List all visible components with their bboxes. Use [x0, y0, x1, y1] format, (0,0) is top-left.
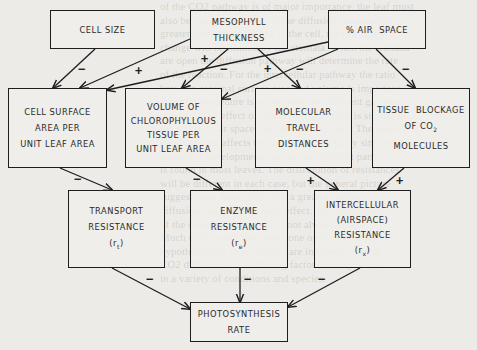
sign-intercellular-photosynthesis: −	[318, 272, 325, 286]
node-symbol: (re)	[231, 235, 247, 255]
sign-molecular-intercellular: +	[307, 174, 314, 188]
node-label: RESISTANCE	[88, 219, 144, 235]
node-cell-size: CELL SIZE	[50, 10, 155, 49]
node-label: INTERCELLULAR	[326, 198, 399, 213]
node-label: AREA PER	[35, 120, 80, 136]
node-label: TRAVEL	[286, 120, 320, 136]
arrow-cellsurface-transport	[60, 168, 112, 190]
node-label: MOLECULES	[393, 138, 448, 154]
node-tissue-blockage: TISSUE BLOCKAGE OF CO2 MOLECULES	[372, 88, 470, 168]
node-label: CELL SURFACE	[24, 104, 91, 120]
node-label: TISSUE PER	[147, 128, 200, 142]
node-intercellular-resistance: INTERCELLULAR (AIRSPACE) RESISTANCE (rx)	[314, 190, 411, 268]
node-label: CELL SIZE	[79, 22, 125, 38]
node-label: VOLUME OF	[147, 100, 200, 114]
sign-tissueblockage-intercellular: +	[396, 174, 403, 188]
sign-enzyme-photosynthesis: −	[244, 272, 251, 286]
node-label: % AIR SPACE	[346, 22, 408, 38]
node-photosynthesis-rate: PHOTOSYNTHESIS RATE	[190, 302, 288, 342]
node-label: (AIRSPACE)	[337, 213, 389, 228]
node-transport-resistance: TRANSPORT RESISTANCE (rt)	[68, 190, 165, 268]
node-label-co2: OF CO2	[404, 118, 437, 138]
node-label: TRANSPORT	[90, 203, 144, 219]
node-label: CHLOROPHYLLOUS	[131, 114, 216, 128]
sign-airspace-tissueblockage: −	[402, 62, 409, 76]
node-label: MESOPHYLL	[212, 14, 266, 30]
node-label: THICKNESS	[213, 30, 264, 46]
node-label: RESISTANCE	[211, 219, 267, 235]
node-label: DISTANCES	[278, 136, 329, 152]
node-molecular-travel: MOLECULAR TRAVEL DISTANCES	[255, 88, 352, 168]
sign-mesophyll-molecular: +	[264, 62, 271, 76]
arrow-chlorophyllous-enzyme	[186, 168, 222, 190]
sign-cellsize-cellsurface: −	[78, 62, 85, 76]
sign-chlorophyllous-enzyme: −	[193, 172, 200, 186]
node-chlorophyllous-volume: VOLUME OF CHLOROPHYLLOUS TISSUE PER UNIT…	[125, 88, 222, 168]
sign-mesophyll-chlorophyllous: +	[201, 52, 208, 66]
node-label: RATE	[228, 322, 251, 338]
sign-mesophyll-cellsurface: +	[135, 64, 142, 78]
node-label: MOLECULAR	[275, 104, 331, 120]
sign-airspace-cellsurface: −	[220, 62, 227, 76]
node-cell-surface-area: CELL SURFACE AREA PER UNIT LEAF AREA	[8, 88, 107, 168]
node-symbol: (rx)	[355, 243, 370, 261]
node-mesophyll-thickness: MESOPHYLL THICKNESS	[190, 10, 288, 49]
sign-cellsurface-transport: −	[74, 172, 81, 186]
sign-transport-photosynthesis: −	[146, 272, 153, 286]
connector-arrows	[0, 0, 477, 350]
node-air-space: % AIR SPACE	[328, 10, 426, 49]
node-label: RESISTANCE	[334, 228, 390, 243]
subscript: 2	[433, 126, 437, 133]
node-symbol: (rt)	[109, 235, 123, 255]
node-label: UNIT LEAF AREA	[136, 142, 211, 156]
arrow-cellsize-cellsurface	[53, 49, 95, 88]
node-label: ENZYME	[220, 203, 258, 219]
node-label: UNIT LEAF AREA	[20, 136, 95, 152]
node-label: PHOTOSYNTHESIS	[198, 306, 280, 322]
sign-airspace-chlorophyllous: −	[296, 62, 303, 76]
node-label: TISSUE BLOCKAGE	[377, 102, 464, 118]
node-enzyme-resistance: ENZYME RESISTANCE (re)	[190, 190, 288, 268]
